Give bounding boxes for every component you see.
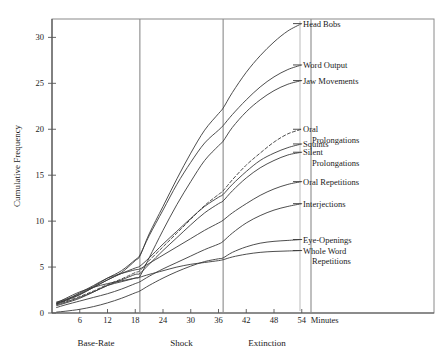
y-tick-label: 25 [36,78,45,88]
phase-label: Shock [170,338,193,348]
x-tick-label: 12 [103,315,112,325]
series-label-text: Repetitions [312,256,351,266]
phase-label: Base-Rate [77,338,114,348]
series-label-text: Word Output [303,60,348,70]
x-tick-label: 30 [187,315,196,325]
y-tick-label: 5 [40,262,44,272]
phase-labels: Base-RateShockExtinction [77,338,286,348]
cumulative-frequency-line-chart: 051015202530 61218243036424854Minutes He… [0,0,445,361]
series-label-text: Oral [303,124,319,134]
x-tick-label: 48 [270,315,279,325]
series-label-text: Jaw Movements [303,76,358,86]
y-tick-label: 0 [40,308,44,318]
y-tick-label: 20 [36,124,45,134]
x-tick-label: 18 [131,315,140,325]
series-label-text: Head Bobs [303,19,341,29]
x-tick-label: 54 [298,315,307,325]
series-label-text: Oral Repetitions [303,177,359,187]
chart-figure: 051015202530 61218243036424854Minutes He… [0,0,445,361]
chart-background [0,0,445,361]
axis-titles: Cumulative Frequency [12,124,22,207]
x-tick-label: 24 [159,315,168,325]
series-label-text: Prolongations [312,158,359,168]
y-tick-label: 10 [36,216,45,226]
phase-label: Extinction [248,338,286,348]
x-tick-label: 36 [214,315,223,325]
series-label-text: Interjections [303,199,345,209]
x-axis-unit-label: Minutes [311,315,339,325]
series-label-text: Eye-Openings [303,235,352,245]
y-tick-label: 30 [36,32,45,42]
x-tick-label: 6 [78,315,82,325]
series-label-text: Whole Word [303,246,347,256]
y-tick-label: 15 [36,170,45,180]
y-axis-title: Cumulative Frequency [12,124,22,207]
x-tick-label: 42 [242,315,251,325]
series-label-text: Silent [303,147,323,157]
